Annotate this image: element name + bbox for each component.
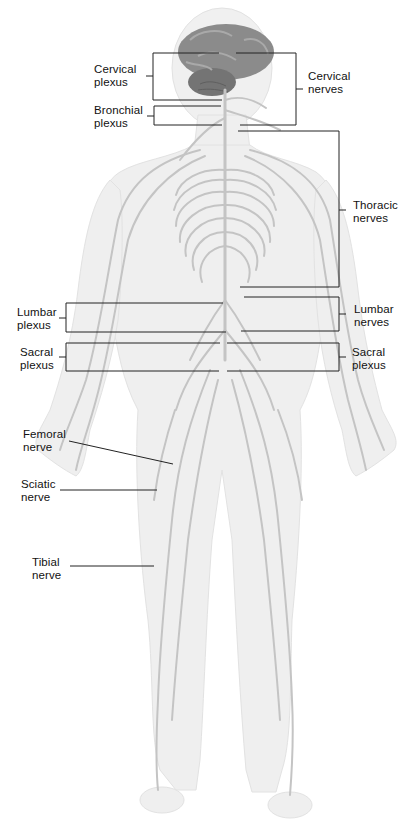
label-sacral-plexus-right: Sacral plexus xyxy=(352,346,386,372)
label-sacral-plexus-left: Sacral plexus xyxy=(20,346,54,372)
label-lumbar-nerves: Lumbar nerves xyxy=(354,303,394,329)
label-text: nerve xyxy=(21,491,56,504)
body-silhouette xyxy=(36,8,396,818)
label-text: nerve xyxy=(32,569,61,582)
label-text: Lumbar xyxy=(354,303,394,316)
label-text: plexus xyxy=(352,359,386,372)
label-cervical-nerves: Cervical nerves xyxy=(308,70,350,96)
label-text: Sacral xyxy=(352,346,386,359)
label-sciatic-nerve: Sciatic nerve xyxy=(21,478,56,504)
label-thoracic-nerves: Thoracic nerves xyxy=(353,199,398,225)
label-text: plexus xyxy=(94,117,143,130)
label-text: Femoral xyxy=(23,428,66,441)
label-text: Lumbar xyxy=(17,306,57,319)
label-text: Sciatic xyxy=(21,478,56,491)
label-femoral-nerve: Femoral nerve xyxy=(23,428,66,454)
label-text: nerves xyxy=(354,316,394,329)
label-text: Tibial xyxy=(32,556,61,569)
label-text: plexus xyxy=(17,319,57,332)
label-lumbar-plexus: Lumbar plexus xyxy=(17,306,57,332)
label-text: plexus xyxy=(94,76,136,89)
label-bronchial-plexus: Bronchial plexus xyxy=(94,104,143,130)
nervous-system-diagram: Cervical plexus Bronchial plexus Cervica… xyxy=(0,0,413,826)
label-text: Cervical xyxy=(94,63,136,76)
label-text: Thoracic xyxy=(353,199,398,212)
label-tibial-nerve: Tibial nerve xyxy=(32,556,61,582)
label-cervical-plexus: Cervical plexus xyxy=(94,63,136,89)
label-text: nerve xyxy=(23,441,66,454)
label-text: Cervical xyxy=(308,70,350,83)
label-text: nerves xyxy=(353,212,398,225)
label-text: Sacral xyxy=(20,346,54,359)
body-illustration xyxy=(0,0,413,826)
label-text: plexus xyxy=(20,359,54,372)
label-text: nerves xyxy=(308,83,350,96)
label-text: Bronchial xyxy=(94,104,143,117)
